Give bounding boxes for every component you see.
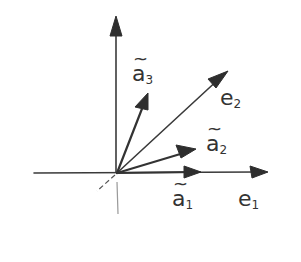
a2-arrowhead — [176, 145, 196, 158]
label-a2-tilde: ~a2 — [206, 133, 227, 156]
label-e2: e2 — [220, 87, 241, 110]
label-base: e — [220, 85, 234, 110]
vector-diagram — [0, 0, 301, 262]
label-subscript: 2 — [219, 143, 227, 157]
e2-vector — [117, 77, 221, 173]
label-subscript: 1 — [185, 198, 193, 212]
label-subscript: 1 — [252, 198, 260, 212]
tilde-mark: ~ — [207, 120, 222, 138]
tilde-mark: ~ — [133, 50, 148, 68]
depth-axis-dashed — [97, 175, 115, 191]
label-e1: e1 — [238, 188, 259, 211]
label-subscript: 2 — [234, 97, 242, 111]
tilde-mark: ~ — [173, 175, 188, 193]
e1-arrowhead — [250, 166, 268, 178]
vertical-axis-lower — [117, 182, 118, 214]
a3-arrowhead — [135, 93, 148, 110]
a3-vector — [117, 101, 145, 173]
label-subscript: 3 — [145, 73, 153, 87]
label-a1-tilde: ~a1 — [172, 188, 193, 211]
label-a3-tilde: ~a3 — [132, 63, 153, 86]
vertical-axis-arrowhead — [110, 16, 122, 36]
label-base: e — [238, 186, 252, 211]
